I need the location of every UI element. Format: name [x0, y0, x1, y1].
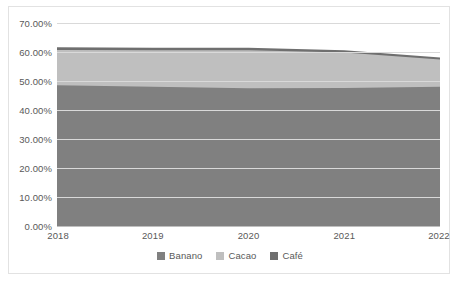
- legend-label: Banano: [169, 250, 202, 261]
- legend-item-cacao[interactable]: Cacao: [216, 250, 256, 261]
- x-tick-label: 2021: [333, 230, 355, 241]
- y-tick-label: 40.00%: [19, 105, 52, 116]
- x-axis: 20182019202020212022: [57, 230, 440, 246]
- stacked-area-series: [57, 23, 440, 226]
- plot-area: [57, 23, 440, 226]
- y-tick-label: 70.00%: [19, 18, 52, 29]
- gridline: [57, 23, 440, 24]
- legend-label: Cacao: [228, 250, 256, 261]
- chart-legend: BananoCacaoCafé: [9, 250, 451, 261]
- x-tick-label: 2019: [142, 230, 164, 241]
- gridline: [57, 110, 440, 111]
- y-tick-label: 30.00%: [19, 134, 52, 145]
- legend-label: Café: [282, 250, 302, 261]
- gridline: [57, 52, 440, 53]
- gridline: [57, 197, 440, 198]
- legend-item-café[interactable]: Café: [270, 250, 302, 261]
- legend-swatch-icon: [270, 252, 278, 260]
- legend-swatch-icon: [157, 252, 165, 260]
- gridline: [57, 168, 440, 169]
- legend-item-banano[interactable]: Banano: [157, 250, 202, 261]
- legend-swatch-icon: [216, 252, 224, 260]
- y-tick-label: 20.00%: [19, 163, 52, 174]
- y-tick-label: 10.00%: [19, 192, 52, 203]
- y-tick-label: 60.00%: [19, 47, 52, 58]
- area-series-banano: [57, 85, 440, 226]
- x-tick-label: 2020: [238, 230, 260, 241]
- chart-container: 0.00%10.00%20.00%30.00%40.00%50.00%60.00…: [8, 6, 450, 274]
- y-axis: 0.00%10.00%20.00%30.00%40.00%50.00%60.00…: [9, 7, 55, 247]
- y-tick-label: 50.00%: [19, 76, 52, 87]
- gridline: [57, 139, 440, 140]
- gridline: [57, 81, 440, 82]
- x-tick-label: 2018: [47, 230, 69, 241]
- x-axis-line: [57, 226, 440, 227]
- x-tick-label: 2022: [428, 230, 450, 241]
